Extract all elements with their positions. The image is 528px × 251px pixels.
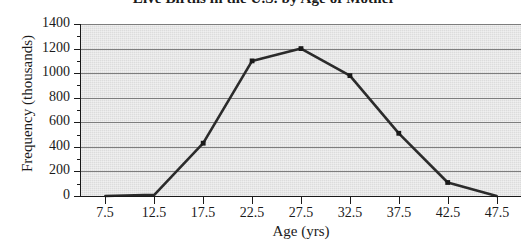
data-point-marker bbox=[201, 141, 206, 146]
x-tick bbox=[301, 197, 302, 204]
y-tick-label: 1400 bbox=[24, 15, 70, 31]
y-tick-minor bbox=[77, 85, 81, 86]
x-tick bbox=[448, 197, 449, 204]
y-tick-label: 200 bbox=[24, 162, 70, 178]
data-point-marker bbox=[299, 46, 304, 51]
y-tick-minor bbox=[77, 184, 81, 185]
x-axis-title: Age (yrs) bbox=[81, 223, 521, 240]
x-tick bbox=[497, 197, 498, 204]
y-tick bbox=[74, 196, 81, 197]
x-tick bbox=[154, 197, 155, 204]
x-tick bbox=[399, 197, 400, 204]
y-tick-label: 600 bbox=[24, 113, 70, 129]
data-point-marker bbox=[348, 73, 353, 78]
y-tick-label: 1200 bbox=[24, 40, 70, 56]
y-tick bbox=[74, 24, 81, 25]
data-line-series bbox=[81, 24, 521, 196]
y-tick-minor bbox=[77, 36, 81, 37]
data-line bbox=[105, 49, 496, 196]
y-tick-label: 400 bbox=[24, 138, 70, 154]
y-tick bbox=[74, 171, 81, 172]
y-tick bbox=[74, 98, 81, 99]
y-tick bbox=[74, 147, 81, 148]
x-tick bbox=[350, 197, 351, 204]
x-tick bbox=[105, 197, 106, 204]
y-tick bbox=[74, 49, 81, 50]
y-tick-label: 0 bbox=[24, 187, 70, 203]
plot-area bbox=[81, 24, 521, 196]
y-tick bbox=[74, 73, 81, 74]
data-point-marker bbox=[445, 180, 450, 185]
y-tick-minor bbox=[77, 110, 81, 111]
chart-title: Live Births in the U.S. by Age of Mother bbox=[0, 0, 528, 7]
y-tick-minor bbox=[77, 159, 81, 160]
y-tick-label: 1000 bbox=[24, 64, 70, 80]
chart-screenshot: Live Births in the U.S. by Age of Mother… bbox=[0, 0, 528, 251]
y-tick-minor bbox=[77, 61, 81, 62]
data-point-marker bbox=[396, 131, 401, 136]
x-tick bbox=[252, 197, 253, 204]
data-point-marker bbox=[250, 59, 255, 64]
y-tick-label: 800 bbox=[24, 89, 70, 105]
y-tick-minor bbox=[77, 135, 81, 136]
x-tick bbox=[203, 197, 204, 204]
x-tick-label: 47.5 bbox=[467, 205, 527, 221]
y-tick bbox=[74, 122, 81, 123]
